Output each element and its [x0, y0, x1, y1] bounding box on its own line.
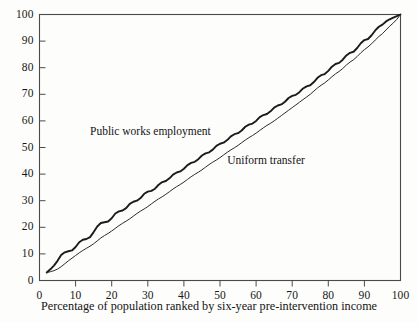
y-tick-label: 80	[4, 62, 34, 74]
y-tick-label: 0	[4, 275, 34, 287]
y-tick-label: 70	[4, 88, 34, 100]
y-tick-label: 30	[4, 195, 34, 207]
x-axis-title: Percentage of population ranked by six-y…	[0, 299, 418, 313]
y-tick-label: 50	[4, 142, 34, 154]
chart-figure: 0102030405060708090100 01020304050607080…	[0, 0, 418, 323]
series-paths	[47, 15, 401, 273]
y-tick-label: 60	[4, 115, 34, 127]
y-tick-label: 100	[4, 9, 34, 21]
y-tick-label: 90	[4, 35, 34, 47]
curve-annotation-2: Uniform transfer	[227, 154, 305, 166]
y-tick-label: 40	[4, 168, 34, 180]
y-tick-label: 10	[4, 248, 34, 260]
lorenz-curve-plot	[0, 0, 418, 323]
tick-marks	[40, 41, 365, 286]
curve-annotation-1: Public works employment	[90, 125, 211, 137]
y-tick-label: 20	[4, 221, 34, 233]
series-line-1	[47, 15, 401, 273]
